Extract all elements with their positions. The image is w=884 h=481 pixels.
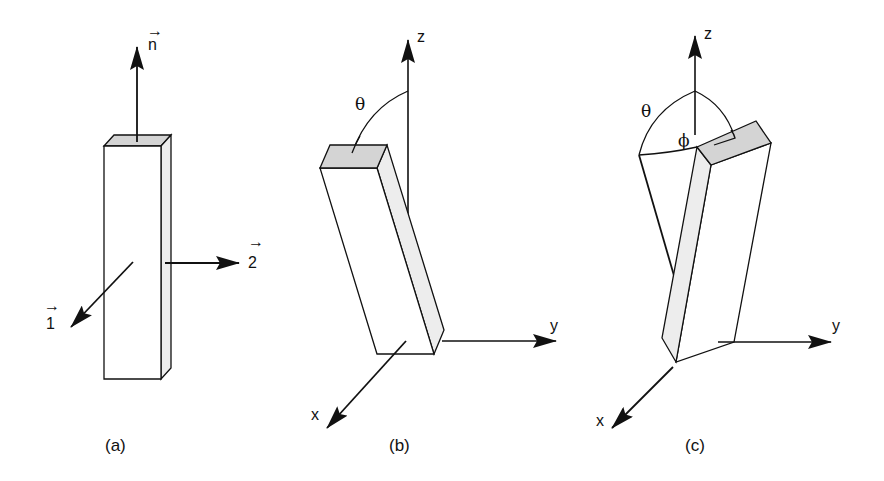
panel-a: n → 2 → 1 → (a): [44, 22, 264, 455]
bar-b: [320, 145, 444, 354]
figure-canvas: n → 2 → 1 → (a) z θ y x (b): [0, 0, 884, 481]
x-axis-label: x: [311, 406, 319, 423]
vector-arrow-glyph: →: [248, 233, 264, 250]
z-axis-label: z: [417, 28, 425, 45]
panel-a-caption: (a): [105, 436, 126, 455]
projection-line: [639, 155, 677, 286]
panel-b: z θ y x (b): [311, 28, 558, 455]
bar-a: [104, 135, 171, 379]
x-axis: [327, 341, 406, 428]
y-axis-label: y: [832, 317, 840, 334]
phi-label: ϕ: [678, 130, 690, 150]
bar-a-side-face: [161, 135, 171, 379]
axis2-vector-label: 2: [248, 254, 257, 271]
theta-label: θ: [641, 101, 651, 121]
panel-c: z θ ϕ y x (c): [596, 25, 840, 455]
x-axis: [612, 367, 673, 428]
panel-c-caption: (c): [685, 436, 705, 455]
vector-arrow-glyph: →: [44, 297, 60, 314]
bar-c: [662, 121, 771, 362]
vector-arrow-glyph: →: [147, 22, 163, 39]
x-axis-label: x: [596, 412, 604, 429]
y-axis-label: y: [550, 317, 558, 334]
theta-label: θ: [355, 94, 365, 114]
z-axis-label: z: [704, 25, 712, 42]
panel-b-caption: (b): [389, 436, 410, 455]
axis1-vector-label: 1: [46, 315, 55, 332]
meridian-arc: [695, 91, 735, 138]
